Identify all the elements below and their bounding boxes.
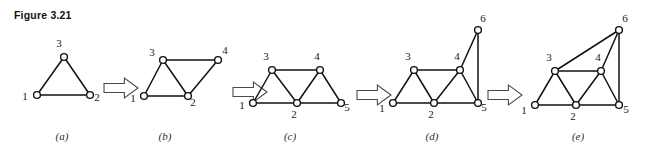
vertex-label-1: 1 bbox=[22, 90, 28, 102]
vertex-label-5: 5 bbox=[481, 101, 487, 113]
graph-edge-4-5 bbox=[320, 70, 341, 103]
vertex-label-3: 3 bbox=[405, 50, 411, 62]
panel-label-b: (b) bbox=[159, 130, 172, 143]
graph-vertex-3 bbox=[552, 68, 559, 75]
graph-vertex-1 bbox=[141, 93, 148, 100]
graph-vertex-3 bbox=[160, 57, 167, 64]
graph-vertex-2 bbox=[294, 100, 301, 107]
graph-vertex-4 bbox=[215, 57, 222, 64]
vertex-label-1: 1 bbox=[379, 102, 385, 114]
graph-edge-1-3 bbox=[144, 60, 163, 96]
vertex-label-1: 1 bbox=[130, 92, 136, 104]
graph-vertex-2 bbox=[87, 92, 94, 99]
graph-edge-4-5 bbox=[460, 70, 478, 103]
graph-panel-e: 123456(e) bbox=[521, 12, 629, 143]
graph-vertex-1 bbox=[532, 102, 539, 109]
graph-edge-2-3 bbox=[272, 70, 297, 103]
graph-panel-c: 12345(c) bbox=[239, 50, 350, 143]
vertices-group: 123456 bbox=[379, 12, 487, 120]
vertex-label-4: 4 bbox=[314, 50, 320, 62]
vertex-label-1: 1 bbox=[521, 104, 527, 116]
graph-panel-d: 123456(d) bbox=[379, 12, 487, 143]
graph-vertex-1 bbox=[34, 92, 41, 99]
graph-vertex-2 bbox=[573, 102, 580, 109]
edges-group bbox=[37, 57, 90, 95]
panel-label-d: (d) bbox=[426, 130, 439, 143]
graph-sequence-diagram: 123(a)1234(b)12345(c)123456(d)123456(e) bbox=[0, 0, 657, 160]
vertex-label-6: 6 bbox=[622, 12, 628, 24]
graph-vertex-6 bbox=[616, 27, 623, 34]
graph-edge-2-4 bbox=[297, 70, 320, 103]
graph-edge-2-4 bbox=[188, 60, 218, 96]
graph-vertex-3 bbox=[269, 67, 276, 74]
graph-edge-2-3 bbox=[414, 70, 434, 103]
vertex-label-3: 3 bbox=[263, 50, 269, 62]
panels-layer: 123(a)1234(b)12345(c)123456(d)123456(e) bbox=[22, 12, 629, 143]
edges-group bbox=[393, 30, 478, 103]
graph-vertex-2 bbox=[431, 100, 438, 107]
graph-vertex-4 bbox=[598, 68, 605, 75]
panel-label-a: (a) bbox=[56, 130, 69, 143]
graph-edge-2-4 bbox=[434, 70, 460, 103]
graph-edge-2-3 bbox=[163, 60, 188, 96]
vertices-group: 1234 bbox=[130, 44, 228, 108]
vertex-label-2: 2 bbox=[190, 96, 196, 108]
vertices-group: 123 bbox=[22, 37, 100, 103]
vertex-label-4: 4 bbox=[595, 51, 601, 63]
edges-group bbox=[253, 70, 341, 103]
graph-vertex-4 bbox=[457, 67, 464, 74]
transition-arrow-icon bbox=[357, 85, 391, 105]
vertex-label-2: 2 bbox=[291, 108, 297, 120]
graph-edge-4-6 bbox=[460, 30, 478, 70]
graph-panel-b: 1234(b) bbox=[130, 44, 228, 143]
vertex-label-5: 5 bbox=[623, 103, 629, 115]
transition-arrow-icon bbox=[488, 85, 522, 105]
transition-arrow-icon bbox=[233, 82, 267, 102]
graph-edge-2-3 bbox=[64, 57, 90, 95]
vertex-label-3: 3 bbox=[56, 37, 62, 49]
graph-edge-1-3 bbox=[535, 71, 555, 105]
graph-edge-2-4 bbox=[576, 71, 601, 105]
graph-edge-1-3 bbox=[393, 70, 414, 103]
graph-vertex-3 bbox=[411, 67, 418, 74]
graph-vertex-3 bbox=[61, 54, 68, 61]
vertex-label-5: 5 bbox=[344, 101, 350, 113]
graph-panel-a: 123(a) bbox=[22, 37, 100, 143]
vertex-label-2: 2 bbox=[428, 108, 434, 120]
panel-label-e: (e) bbox=[572, 130, 585, 143]
vertex-label-2: 2 bbox=[570, 110, 576, 122]
graph-vertex-1 bbox=[390, 100, 397, 107]
vertex-label-6: 6 bbox=[480, 12, 486, 24]
graph-vertex-4 bbox=[317, 67, 324, 74]
graph-vertex-5 bbox=[616, 102, 623, 109]
edges-group bbox=[535, 30, 619, 105]
vertex-label-2: 2 bbox=[94, 91, 100, 103]
vertex-label-4: 4 bbox=[222, 44, 228, 56]
graph-edge-2-3 bbox=[555, 71, 576, 105]
vertex-label-3: 3 bbox=[546, 51, 552, 63]
graph-edge-4-5 bbox=[601, 71, 619, 105]
graph-vertex-1 bbox=[250, 100, 257, 107]
panel-label-c: (c) bbox=[284, 130, 297, 143]
vertex-label-3: 3 bbox=[149, 46, 155, 58]
edges-group bbox=[144, 60, 218, 96]
graph-edge-1-3 bbox=[37, 57, 64, 95]
graph-vertex-6 bbox=[475, 27, 482, 34]
arrows-layer bbox=[104, 78, 522, 105]
figure-container: Figure 3.21 123(a)1234(b)12345(c)123456(… bbox=[0, 0, 657, 160]
vertex-label-1: 1 bbox=[239, 99, 245, 111]
vertex-label-4: 4 bbox=[454, 50, 460, 62]
